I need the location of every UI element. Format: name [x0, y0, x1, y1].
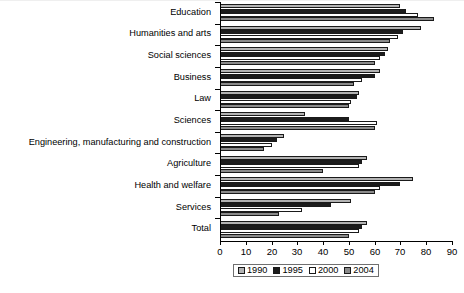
category-label: Social sciences — [0, 50, 211, 60]
bar-group — [220, 69, 452, 86]
value-tick-label: 10 — [232, 246, 260, 257]
bar-group — [220, 112, 452, 129]
bar-2004-social-sciences — [220, 61, 375, 65]
category-tick — [215, 110, 220, 111]
bar-2004-total — [220, 234, 349, 238]
category-axis: EducationHumanities and artsSocial scien… — [0, 0, 216, 242]
legend-swatch-icon — [309, 267, 316, 274]
bar-group — [220, 177, 452, 194]
value-tick-label: 60 — [361, 246, 389, 257]
value-tick — [297, 241, 298, 245]
legend-label: 1990 — [247, 265, 267, 275]
bar-1995-law — [220, 95, 357, 99]
bar-1995-engineering-manufacturing-and-construction — [220, 138, 277, 142]
bar-2004-business — [220, 82, 354, 86]
bar-1995-total — [220, 225, 362, 229]
legend-item-1995[interactable]: 1995 — [273, 265, 302, 275]
bar-1995-social-sciences — [220, 52, 385, 56]
category-label: Engineering, manufacturing and construct… — [0, 137, 211, 147]
bar-2004-agriculture — [220, 169, 323, 173]
bar-1995-sciences — [220, 117, 349, 121]
category-label: Total — [0, 223, 211, 233]
bar-group — [220, 199, 452, 216]
plot-area — [220, 2, 452, 240]
value-tick-label: 0 — [206, 246, 234, 257]
bar-2004-sciences — [220, 126, 375, 130]
bar-2000-agriculture — [220, 164, 359, 168]
legend-item-2004[interactable]: 2004 — [344, 265, 373, 275]
bar-1990-services — [220, 199, 351, 203]
value-tick — [220, 241, 221, 245]
bar-2000-services — [220, 208, 302, 212]
category-tick — [215, 24, 220, 25]
bar-1990-business — [220, 69, 380, 73]
value-axis-line — [220, 241, 453, 242]
value-tick-label: 90 — [438, 246, 464, 257]
bar-1995-business — [220, 74, 375, 78]
bar-1995-health-and-welfare — [220, 182, 400, 186]
category-tick — [215, 153, 220, 154]
value-tick-label: 30 — [283, 246, 311, 257]
value-tick-label: 70 — [386, 246, 414, 257]
bar-2000-health-and-welfare — [220, 186, 380, 190]
bar-1995-humanities-and-arts — [220, 30, 403, 34]
category-label: Law — [0, 93, 211, 103]
bar-2004-law — [220, 104, 349, 108]
category-tick — [215, 2, 220, 3]
bar-2000-total — [220, 229, 359, 233]
bar-1990-sciences — [220, 112, 305, 116]
category-tick — [215, 45, 220, 46]
bar-2000-law — [220, 100, 351, 104]
legend-label: 2004 — [353, 265, 373, 275]
category-label: Services — [0, 202, 211, 212]
legend-swatch-icon — [238, 267, 245, 274]
bar-group — [220, 4, 452, 21]
bar-2000-business — [220, 78, 362, 82]
value-tick-label: 40 — [309, 246, 337, 257]
bar-1990-education — [220, 4, 400, 8]
value-tick-label: 80 — [412, 246, 440, 257]
value-tick — [272, 241, 273, 245]
bar-2000-engineering-manufacturing-and-construction — [220, 143, 272, 147]
bar-2000-sciences — [220, 121, 377, 125]
legend-item-2000[interactable]: 2000 — [309, 265, 338, 275]
category-axis-line — [220, 2, 221, 241]
value-tick — [349, 241, 350, 245]
category-label: Sciences — [0, 115, 211, 125]
value-tick — [323, 241, 324, 245]
category-label: Education — [0, 7, 211, 17]
bar-2000-social-sciences — [220, 56, 380, 60]
value-tick — [452, 241, 453, 245]
bar-1995-services — [220, 203, 331, 207]
bar-1990-agriculture — [220, 156, 367, 160]
bar-group — [220, 156, 452, 173]
bar-1990-humanities-and-arts — [220, 26, 421, 30]
bar-2000-education — [220, 13, 418, 17]
value-tick-label: 20 — [258, 246, 286, 257]
legend-item-1990[interactable]: 1990 — [238, 265, 267, 275]
category-label: Health and welfare — [0, 180, 211, 190]
value-tick — [400, 241, 401, 245]
legend-label: 2000 — [318, 265, 338, 275]
bar-2004-humanities-and-arts — [220, 39, 390, 43]
bar-group — [220, 221, 452, 238]
legend-swatch-icon — [273, 267, 280, 274]
bar-2000-humanities-and-arts — [220, 35, 398, 39]
value-tick — [426, 241, 427, 245]
bar-1990-social-sciences — [220, 47, 388, 51]
bar-group — [220, 91, 452, 108]
bar-2004-health-and-welfare — [220, 190, 375, 194]
category-label: Agriculture — [0, 158, 211, 168]
category-label: Business — [0, 72, 211, 82]
bar-group — [220, 134, 452, 151]
bar-2004-engineering-manufacturing-and-construction — [220, 147, 264, 151]
chart-legend[interactable]: 1990199520002004 — [233, 264, 379, 277]
bar-2004-education — [220, 17, 434, 21]
bar-2004-services — [220, 212, 279, 216]
bar-1995-education — [220, 9, 406, 13]
value-tick — [246, 241, 247, 245]
category-tick — [215, 67, 220, 68]
category-tick — [215, 197, 220, 198]
bar-1995-agriculture — [220, 160, 362, 164]
value-tick-label: 50 — [335, 246, 363, 257]
